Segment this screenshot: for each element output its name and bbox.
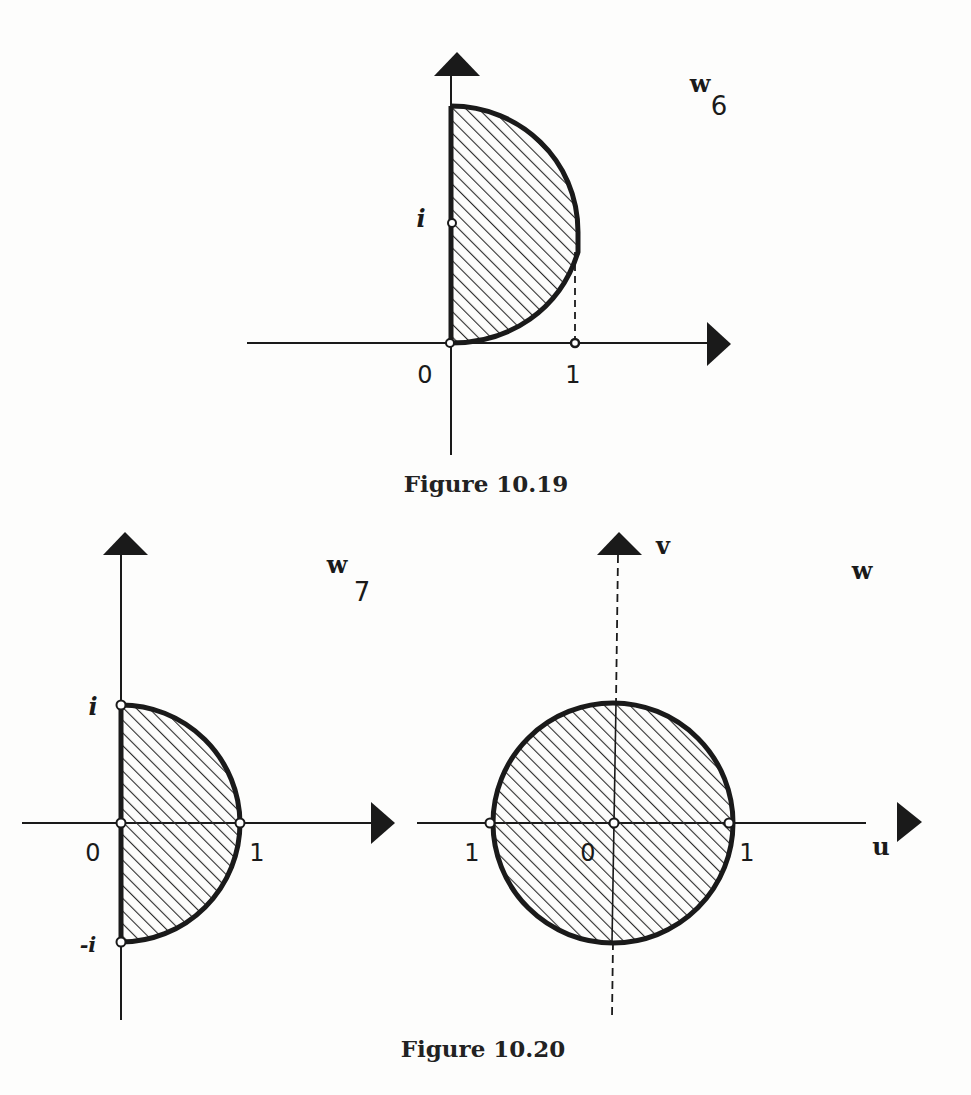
label-minus-one: 1 [464,841,479,865]
figures-canvas [0,0,971,1095]
shaded-region [451,106,578,343]
point-i [117,701,126,710]
label-one: 1 [565,363,580,387]
axis-label-u: u [872,835,889,859]
point-one [725,819,734,828]
label-origin: 0 [580,841,595,865]
plane-label-w: w [852,559,873,583]
plane-label-w7: w [327,553,348,577]
shaded-region [121,705,240,942]
caption-figure-10-19: Figure 10.19 [404,470,569,497]
plane-label-w6: w [690,72,711,96]
point-minus-one [486,819,495,828]
label-minus-i: -i [80,934,97,955]
point-minus-i [117,938,126,947]
label-origin: 0 [85,841,100,865]
label-i: i [88,695,97,719]
v-axis-arrow-icon [597,532,642,555]
v-axis [616,555,618,703]
real-axis-arrow-icon [707,322,731,366]
point-origin [446,339,454,347]
plane-subscript-7: 7 [354,579,371,605]
figure-10-20-right-diagram [417,532,922,1017]
axis-label-v: v [656,534,670,558]
point-origin [610,819,619,828]
point-one [236,819,245,828]
imaginary-axis-arrow-icon [434,52,480,76]
u-axis-arrow-icon [897,802,922,842]
figure-10-20-left-diagram [22,532,395,1020]
label-origin: 0 [417,363,432,387]
point-origin [117,819,126,828]
label-one: 1 [249,841,264,865]
caption-figure-10-20: Figure 10.20 [401,1035,566,1062]
plane-subscript-6: 6 [711,93,728,119]
label-one: 1 [739,841,754,865]
label-i: i [416,207,425,231]
figure-10-19-diagram [247,52,731,455]
point-one [571,339,579,347]
book-page: w 6 i 0 1 Figure 10.19 w 7 i 0 1 -i v w … [0,0,971,1095]
real-axis-arrow-icon [371,802,395,844]
imaginary-axis-arrow-icon [103,532,148,555]
point-i [448,219,456,227]
